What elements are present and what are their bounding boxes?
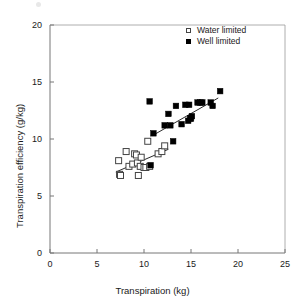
data-point-water-limited bbox=[159, 149, 165, 155]
data-point-water-limited bbox=[162, 143, 168, 149]
data-point-well-limited bbox=[173, 103, 179, 109]
x-tick-label: 10 bbox=[139, 260, 149, 269]
data-point-well-limited bbox=[166, 111, 172, 117]
scatter-plot-figure: 051015202505101520 Transpiration efficie… bbox=[0, 0, 305, 301]
data-point-well-limited bbox=[179, 121, 185, 127]
legend-item-water-limited: Water limited bbox=[186, 25, 246, 36]
legend-label-well-limited: Well limited bbox=[197, 36, 240, 47]
y-tick-label: 0 bbox=[20, 249, 42, 258]
open-square-icon bbox=[186, 28, 191, 33]
axes-lines bbox=[50, 25, 285, 253]
x-axis-title: Transpiration (kg) bbox=[0, 285, 305, 296]
data-point-well-limited bbox=[199, 100, 205, 106]
data-point-well-limited bbox=[162, 123, 168, 129]
x-tick-label: 25 bbox=[280, 260, 290, 269]
data-point-well-limited bbox=[210, 103, 216, 109]
plot-canvas bbox=[0, 0, 305, 301]
data-point-well-limited bbox=[151, 131, 157, 137]
x-tick-label: 0 bbox=[47, 260, 52, 269]
y-tick-label: 15 bbox=[20, 78, 42, 87]
data-point-water-limited bbox=[116, 158, 122, 164]
x-tick-label: 20 bbox=[233, 260, 243, 269]
x-tick-label: 5 bbox=[94, 260, 99, 269]
chart-legend: Water limited Well limited bbox=[186, 25, 246, 47]
tick-marks bbox=[50, 25, 285, 253]
data-point-water-limited bbox=[135, 172, 141, 178]
data-point-water-limited bbox=[145, 138, 151, 144]
x-tick-label: 15 bbox=[186, 260, 196, 269]
data-point-water-limited bbox=[123, 149, 129, 155]
data-point-well-limited bbox=[186, 102, 192, 108]
legend-label-water-limited: Water limited bbox=[197, 25, 246, 36]
y-tick-label: 20 bbox=[20, 21, 42, 30]
data-point-well-limited bbox=[170, 138, 176, 144]
data-point-well-limited bbox=[148, 162, 154, 168]
data-point-well-limited bbox=[189, 113, 195, 119]
data-markers bbox=[116, 88, 223, 178]
data-point-well-limited bbox=[217, 88, 223, 94]
data-point-water-limited bbox=[118, 172, 124, 178]
data-point-well-limited bbox=[147, 99, 153, 105]
filled-square-icon bbox=[186, 39, 191, 44]
data-point-well-limited bbox=[168, 123, 174, 129]
legend-item-well-limited: Well limited bbox=[186, 36, 246, 47]
data-point-water-limited bbox=[138, 154, 144, 160]
y-axis-title: Transpiration efficiency (g/kg) bbox=[14, 104, 25, 228]
